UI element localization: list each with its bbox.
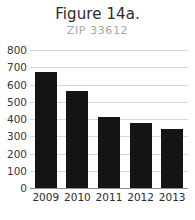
figure-container: Figure 14a. ZIP 33612 800700600500400300… bbox=[0, 0, 195, 220]
bar bbox=[98, 117, 120, 188]
y-axis-tick-label: 100 bbox=[0, 166, 27, 176]
title-block: Figure 14a. ZIP 33612 bbox=[0, 6, 195, 38]
chart-subtitle: ZIP 33612 bbox=[0, 24, 195, 38]
x-axis-tick-label: 2013 bbox=[155, 191, 189, 204]
y-axis-tick-label: 600 bbox=[0, 80, 27, 90]
x-axis-labels: 20092010201120122013 bbox=[30, 191, 188, 207]
x-axis-tick-label: 2011 bbox=[92, 191, 126, 204]
plot-area bbox=[30, 50, 188, 188]
bar bbox=[35, 72, 57, 188]
x-axis-tick-label: 2009 bbox=[29, 191, 63, 204]
y-axis-tick-label: 0 bbox=[0, 183, 27, 193]
y-axis-tick-label: 400 bbox=[0, 114, 27, 124]
y-axis-tick-label: 200 bbox=[0, 149, 27, 159]
bar bbox=[161, 129, 183, 188]
chart-title: Figure 14a. bbox=[0, 6, 195, 23]
bar bbox=[130, 123, 152, 188]
x-axis-tick-label: 2012 bbox=[124, 191, 158, 204]
y-axis-tick-label: 500 bbox=[0, 97, 27, 107]
y-axis-tick-label: 700 bbox=[0, 62, 27, 72]
x-axis-tick-label: 2010 bbox=[61, 191, 95, 204]
bar-series bbox=[30, 50, 188, 188]
y-axis-labels: 8007006005004003002001000 bbox=[0, 50, 27, 188]
y-axis-tick-label: 800 bbox=[0, 45, 27, 55]
axis-baseline bbox=[30, 188, 188, 189]
y-axis-tick-label: 300 bbox=[0, 131, 27, 141]
bar bbox=[66, 91, 88, 188]
